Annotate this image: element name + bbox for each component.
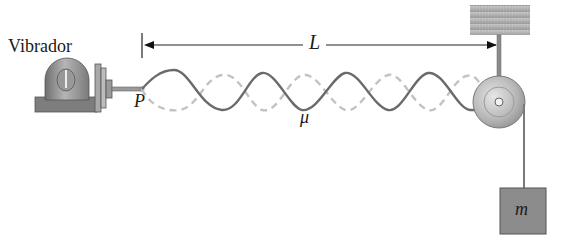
ceiling-support — [470, 5, 530, 35]
arrow-right-icon — [487, 41, 497, 49]
wave-apparatus-diagram: Vibrador L P μ m — [0, 0, 568, 235]
length-label: L — [303, 32, 326, 52]
vibrator-label: Vibrador — [8, 37, 72, 55]
pulley — [473, 76, 525, 128]
vibrator — [35, 58, 144, 112]
pulley-axle-icon — [495, 98, 503, 106]
linear-density-label: μ — [300, 108, 309, 126]
arrow-left-icon — [144, 41, 154, 49]
vibrator-plate — [95, 64, 101, 112]
point-p-label: P — [134, 92, 145, 110]
mass-label: m — [515, 200, 528, 218]
diagram-canvas — [0, 0, 568, 235]
standing-wave-dashed — [142, 75, 480, 111]
